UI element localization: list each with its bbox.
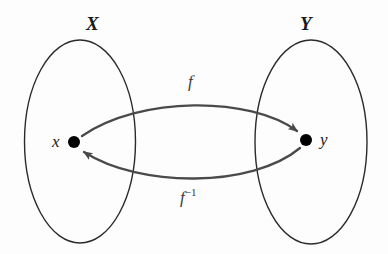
arrow-label-f: f (188, 71, 193, 90)
arrow-label-f-base: f (188, 72, 193, 91)
set-label-x: X (86, 14, 99, 33)
arrow-forward-f (82, 105, 297, 136)
arrow-label-f-inverse: f−1 (180, 187, 196, 206)
arrow-label-f-inverse-superscript: −1 (185, 186, 197, 198)
diagram-canvas-svg (0, 0, 388, 254)
point-y (300, 134, 312, 146)
set-boundary-x (25, 40, 136, 243)
arrow-inverse-f-inv (84, 148, 300, 179)
bijection-diagram: X Y x y f f−1 (0, 0, 388, 254)
point-x (68, 136, 80, 148)
point-label-y: y (320, 131, 328, 148)
set-label-y: Y (300, 14, 312, 33)
point-label-x: x (52, 133, 60, 150)
